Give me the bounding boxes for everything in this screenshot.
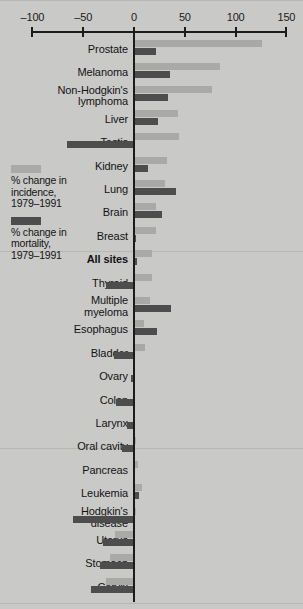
bar-row: Prostate	[0, 38, 303, 61]
frame-bottom-divider	[0, 603, 303, 604]
legend-label: % change in mortality, 1979–1991	[11, 227, 89, 262]
bar-row-label: Kidney	[95, 161, 128, 173]
plot-area: ProstateMelanomaNon-Hodgkin's lymphomaLi…	[0, 36, 303, 602]
bar-row: Stomach	[0, 553, 303, 576]
bar-mortality	[106, 282, 134, 289]
bar-row-label: Larynx	[96, 418, 128, 430]
bar-mortality	[116, 399, 134, 406]
bar-row: Testis	[0, 132, 303, 155]
bar-row-label: Brain	[103, 207, 128, 219]
bar-row: Leukemia	[0, 483, 303, 506]
bar-incidence	[134, 344, 145, 351]
bar-row-label: Non-Hodgkin's lymphoma	[57, 85, 128, 108]
bar-row-label: Breast	[97, 231, 128, 243]
x-axis-tick-label: 150	[278, 11, 296, 23]
bar-mortality	[134, 165, 148, 172]
bar-row: Uterus	[0, 529, 303, 552]
bar-incidence	[134, 63, 220, 70]
bar-incidence	[115, 531, 134, 538]
bar-incidence	[134, 274, 152, 281]
legend-swatch-mortality	[11, 217, 41, 225]
bar-row-label: Lung	[104, 184, 128, 196]
bar-mortality	[134, 211, 162, 218]
bar-row-label: Leukemia	[81, 488, 128, 500]
bar-mortality	[134, 48, 156, 55]
bar-incidence	[106, 578, 134, 585]
bar-mortality	[134, 118, 158, 125]
bar-mortality	[67, 141, 134, 148]
bar-incidence	[134, 297, 150, 304]
legend-entry: % change in incidence, 1979–1991	[11, 165, 89, 210]
bar-row-label: Oral cavity	[77, 441, 128, 453]
bar-row-label: Esophagus	[74, 324, 128, 336]
bar-row-label: Liver	[105, 114, 128, 126]
x-axis-tick-label: –100	[21, 11, 45, 23]
bar-row-label: Pancreas	[82, 465, 128, 477]
x-axis-tick-label: 50	[179, 11, 191, 23]
bar-row: Thyroid	[0, 272, 303, 295]
bar-incidence	[134, 320, 144, 327]
bar-row: Hodgkin's disease	[0, 506, 303, 529]
bar-row: Esophagus	[0, 319, 303, 342]
bar-mortality	[134, 94, 168, 101]
bar-mortality	[91, 586, 134, 593]
bar-row: Melanoma	[0, 61, 303, 84]
x-axis-tick-label: 0	[131, 11, 137, 23]
chart-legend: % change in incidence, 1979–1991% change…	[11, 165, 89, 268]
bar-mortality	[134, 188, 176, 195]
x-axis-rule	[32, 31, 286, 33]
bar-mortality	[134, 328, 157, 335]
bar-incidence	[134, 227, 156, 234]
bar-row: Bladder	[0, 342, 303, 365]
bar-row: Pancreas	[0, 459, 303, 482]
bar-incidence	[134, 110, 178, 117]
bar-mortality	[73, 516, 134, 523]
zero-reference-line	[133, 36, 135, 602]
bar-incidence	[134, 484, 142, 491]
x-axis-tick-label: 100	[227, 11, 245, 23]
bar-incidence	[134, 203, 156, 210]
bar-mortality	[114, 352, 134, 359]
legend-label: % change in incidence, 1979–1991	[11, 175, 89, 210]
bar-row-label: Multiple myeloma	[84, 295, 128, 318]
bar-incidence	[110, 554, 134, 561]
bar-row: Larynx	[0, 412, 303, 435]
x-axis: –100–50050100150	[0, 0, 303, 40]
bar-incidence	[134, 157, 167, 164]
bar-mortality	[103, 539, 134, 546]
x-axis-tick-label: –50	[74, 11, 92, 23]
bar-incidence	[134, 133, 179, 140]
legend-entry: % change in mortality, 1979–1991	[11, 217, 89, 262]
bar-row: Non-Hodgkin's lymphoma	[0, 85, 303, 108]
bar-row: Cervix	[0, 576, 303, 599]
bar-incidence	[134, 86, 212, 93]
bar-row: Multiple myeloma	[0, 295, 303, 318]
bar-incidence	[134, 250, 152, 257]
bar-row-label: All sites	[87, 254, 128, 266]
bar-row: Colon	[0, 389, 303, 412]
bar-row-label: Melanoma	[77, 67, 128, 79]
bar-row: Liver	[0, 108, 303, 131]
bar-row-label: Prostate	[88, 44, 128, 56]
bar-mortality	[134, 305, 171, 312]
bar-row: Oral cavity	[0, 436, 303, 459]
bar-incidence	[134, 40, 262, 47]
legend-swatch-incidence	[11, 165, 41, 173]
cancer-incidence-mortality-chart: –100–50050100150 ProstateMelanomaNon-Hod…	[0, 0, 303, 609]
bar-mortality	[134, 71, 170, 78]
bar-incidence	[134, 180, 165, 187]
bar-row: Ovary	[0, 366, 303, 389]
bar-mortality	[100, 562, 134, 569]
bar-row-label: Ovary	[99, 371, 128, 383]
